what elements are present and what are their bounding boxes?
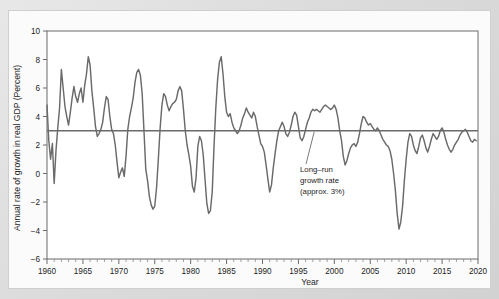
x-tick-label: 1980 <box>182 267 201 276</box>
x-tick-label: 1965 <box>74 267 93 276</box>
y-tick-label: 2 <box>35 141 40 150</box>
figure-container: −6−4−20246810 19601965197019751980198519… <box>0 0 499 299</box>
x-tick-label: 2020 <box>469 267 488 276</box>
y-axis: −6−4−20246810 <box>31 27 47 264</box>
y-tick-label: 0 <box>35 170 40 179</box>
x-tick-label: 1985 <box>217 267 236 276</box>
y-tick-label: −2 <box>31 198 41 207</box>
y-tick-label: 6 <box>35 84 40 93</box>
x-axis: 1960196519701975198019851990199520002005… <box>38 259 488 276</box>
y-tick-label: 4 <box>35 113 40 122</box>
x-tick-label: 1975 <box>146 267 165 276</box>
x-tick-label: 1970 <box>110 267 129 276</box>
x-axis-title: Year <box>301 277 319 287</box>
chart-plot-wrapper: −6−4−20246810 19601965197019751980198519… <box>0 0 499 299</box>
annotation-line-1: Long–run <box>300 165 333 174</box>
x-tick-label: 2005 <box>361 267 380 276</box>
y-axis-title: Annual rate of growth in real GDP (Perce… <box>12 65 22 231</box>
y-tick-label: −4 <box>31 227 41 236</box>
x-tick-label: 2000 <box>325 267 344 276</box>
annotation-line-2: growth rate <box>300 176 339 185</box>
x-tick-label: 1995 <box>289 267 308 276</box>
x-tick-label: 1960 <box>38 267 57 276</box>
annotation-line-3: (approx. 3%) <box>300 187 345 196</box>
y-tick-label: 8 <box>35 56 40 65</box>
y-tick-label: 10 <box>31 27 41 36</box>
x-tick-label: 1990 <box>253 267 272 276</box>
gdp-growth-line-chart: −6−4−20246810 19601965197019751980198519… <box>0 0 499 299</box>
x-tick-label: 2015 <box>433 267 452 276</box>
x-tick-label: 2010 <box>397 267 416 276</box>
y-tick-label: −6 <box>31 255 41 264</box>
